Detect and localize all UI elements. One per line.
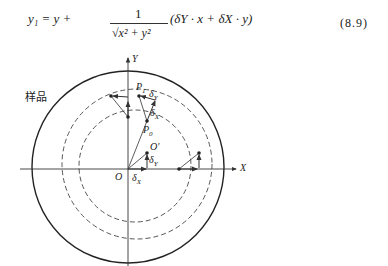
delta-x-label-top: δX bbox=[150, 107, 159, 121]
p1-label: P1 bbox=[136, 81, 146, 95]
y-axis-label: Y bbox=[132, 53, 138, 64]
delta-y-label-top: δY bbox=[149, 88, 158, 102]
dashed-circle-middle bbox=[62, 89, 212, 239]
sample-label: 样品 bbox=[25, 88, 47, 104]
dashed-circle-inner bbox=[79, 110, 191, 222]
x-axis-label: X bbox=[240, 162, 246, 173]
delta-x-label: δX bbox=[132, 172, 141, 186]
sample-deviation-diagram bbox=[0, 0, 388, 266]
delta-y-label: δY bbox=[149, 154, 158, 168]
p0-label: P0 bbox=[143, 124, 153, 138]
origin-label: O bbox=[115, 171, 122, 182]
shifted-origin-label: O′ bbox=[150, 141, 159, 152]
